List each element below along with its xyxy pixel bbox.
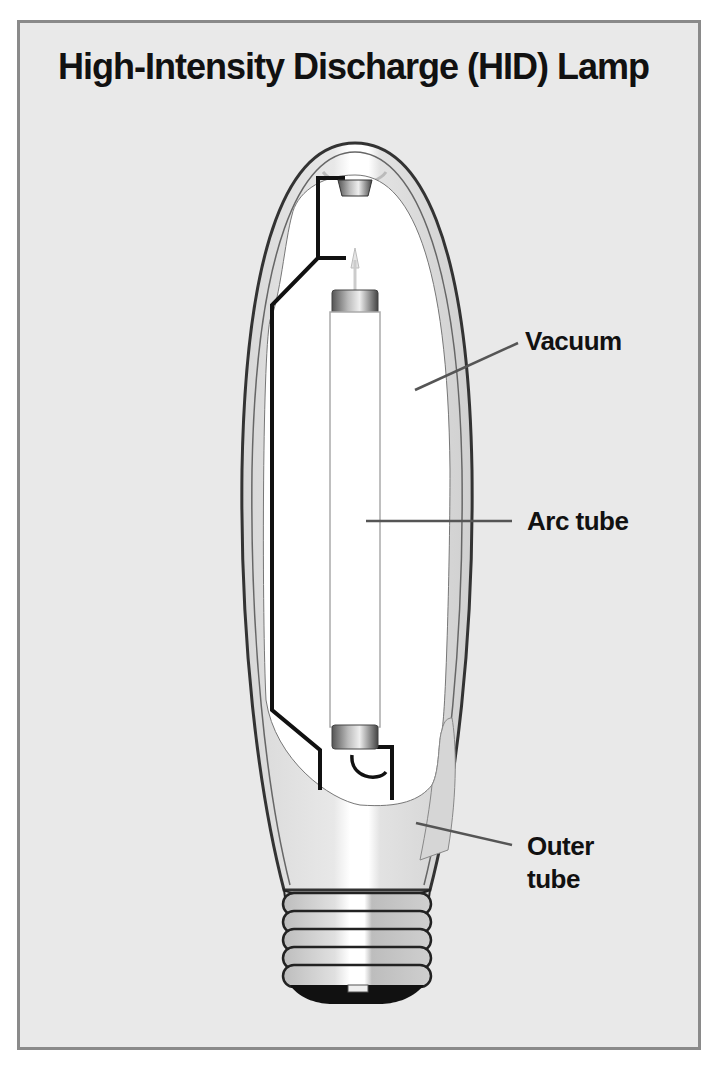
label-vacuum: Vacuum bbox=[525, 325, 622, 358]
top-contact bbox=[338, 180, 372, 196]
screw-base bbox=[283, 890, 431, 1004]
hid-lamp-illustration bbox=[0, 0, 707, 1082]
label-outer-tube-line2: tube bbox=[527, 863, 580, 896]
arc-tube bbox=[330, 248, 380, 749]
label-outer-tube-line1: Outer bbox=[527, 830, 594, 863]
label-arc-tube: Arc tube bbox=[527, 505, 628, 538]
